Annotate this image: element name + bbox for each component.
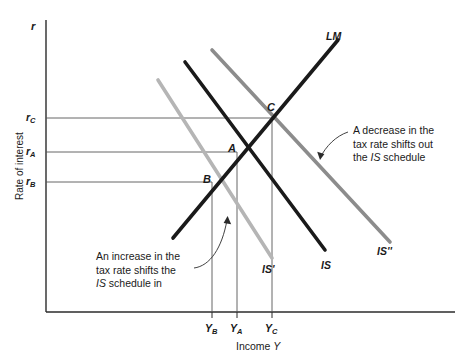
annotation-right-line2: tax rate shifts out xyxy=(353,138,434,152)
y-tick-sub-rB: B xyxy=(30,180,35,189)
annotation-left-line3-post: schedule in xyxy=(106,277,162,289)
y-axis-title: Rate of interest xyxy=(14,132,25,200)
annotation-right: A decrease in the tax rate shifts out th… xyxy=(353,124,434,165)
arrow-curve-left xyxy=(194,220,227,268)
income-guide-lines xyxy=(212,118,272,312)
point-label-A: A xyxy=(228,141,236,155)
annotation-right-line3-pre: the xyxy=(353,151,371,163)
curve-label-is: IS xyxy=(321,259,331,272)
y-tick-label-rB: rB xyxy=(26,175,36,188)
x-tick-sub-YB: B xyxy=(212,327,217,336)
y-tick-sub-rC: C xyxy=(30,116,35,125)
curve-label-lm: LM xyxy=(326,30,341,43)
point-label-C: C xyxy=(267,100,275,114)
y-tick-label-rC: rC xyxy=(26,111,36,124)
x-tick-sub-YA: A xyxy=(237,327,242,336)
is-lm-diagram: r Rate of interest rC rA rB YB YA YC Inc… xyxy=(0,0,469,360)
y-axis-variable-label: r xyxy=(31,19,35,33)
y-tick-label-rA: rA xyxy=(26,145,36,158)
diagram-canvas xyxy=(0,0,469,360)
x-tick-sub-YC: C xyxy=(272,327,277,336)
arrow-head-right xyxy=(317,152,324,160)
x-axis-title-variable: Y xyxy=(273,340,280,352)
curve-is-prime xyxy=(158,80,272,258)
x-tick-label-YA: YA xyxy=(230,322,242,335)
x-axis-title: Income Y xyxy=(236,340,280,353)
x-tick-label-YB: YB xyxy=(205,322,217,335)
rate-guide-lines xyxy=(46,118,272,182)
x-tick-base-YA: Y xyxy=(230,322,237,334)
x-tick-base-YC: Y xyxy=(265,322,272,334)
annotation-right-line3: the IS schedule xyxy=(353,151,434,165)
annotation-left-line3: IS schedule in xyxy=(96,277,180,291)
curve-label-is-prime: IS' xyxy=(262,263,274,276)
y-tick-sub-rA: A xyxy=(30,150,35,159)
annotation-right-line1: A decrease in the xyxy=(353,124,434,138)
curve-label-is-double-prime: IS'' xyxy=(377,245,392,258)
x-tick-label-YC: YC xyxy=(265,322,277,335)
arrow-head-left xyxy=(224,216,232,224)
annotation-right-line3-italic: IS xyxy=(371,151,381,163)
annotation-right-line3-post: schedule xyxy=(380,151,425,163)
x-axis-title-text: Income xyxy=(236,340,273,352)
annotation-left-line3-italic: IS xyxy=(96,277,106,289)
annotation-left-line2: tax rate shifts the xyxy=(96,264,180,278)
annotation-arrow-right xyxy=(317,132,348,160)
x-axis-ticks xyxy=(212,312,272,318)
point-label-B: B xyxy=(203,172,211,186)
annotation-left-line1: An increase in the xyxy=(96,250,180,264)
x-tick-base-YB: Y xyxy=(205,322,212,334)
annotation-arrow-left xyxy=(194,216,231,268)
annotation-left: An increase in the tax rate shifts the I… xyxy=(96,250,180,291)
